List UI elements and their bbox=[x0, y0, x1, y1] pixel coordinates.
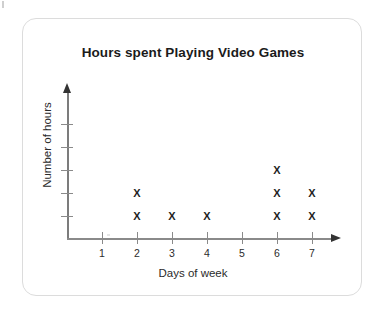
x-axis-tick-label: 6 bbox=[267, 247, 287, 259]
x-axis-tick bbox=[137, 232, 138, 244]
x-axis-tick-label: 7 bbox=[302, 247, 322, 259]
y-axis-tick bbox=[61, 216, 73, 217]
data-point-marker: X bbox=[165, 209, 179, 223]
data-point-marker: X bbox=[270, 209, 284, 223]
data-point-marker: X bbox=[130, 209, 144, 223]
x-axis-tick bbox=[312, 232, 313, 244]
y-axis-arrow-icon bbox=[63, 83, 71, 93]
y-axis-tick bbox=[61, 193, 73, 194]
x-axis-tick bbox=[207, 232, 208, 244]
data-point-marker: X bbox=[305, 209, 319, 223]
plot-area: Hours spent Playing Video Games Number o… bbox=[23, 19, 363, 297]
data-point-marker: X bbox=[200, 209, 214, 223]
data-point-marker: X bbox=[270, 163, 284, 177]
x-axis-line bbox=[67, 238, 333, 240]
y-axis-tick bbox=[61, 147, 73, 148]
data-point-marker: X bbox=[305, 186, 319, 200]
x-axis-label: Days of week bbox=[23, 267, 363, 279]
screenshot-canvas: Hours spent Playing Video Games Number o… bbox=[0, 0, 384, 312]
plot-speck bbox=[107, 234, 110, 236]
corner-artifact bbox=[2, 1, 4, 8]
x-axis-tick-label: 1 bbox=[92, 247, 112, 259]
y-axis-tick bbox=[61, 124, 73, 125]
x-axis-tick bbox=[172, 232, 173, 244]
x-axis-tick bbox=[102, 232, 103, 244]
data-point-marker: X bbox=[130, 186, 144, 200]
x-axis-tick bbox=[242, 232, 243, 244]
data-point-marker: X bbox=[270, 186, 284, 200]
x-axis-tick-label: 2 bbox=[127, 247, 147, 259]
x-axis-tick-label: 3 bbox=[162, 247, 182, 259]
x-axis-arrow-icon bbox=[331, 234, 341, 242]
chart-card: Hours spent Playing Video Games Number o… bbox=[22, 18, 362, 296]
y-axis-tick bbox=[61, 170, 73, 171]
x-axis-tick-label: 5 bbox=[232, 247, 252, 259]
chart-title: Hours spent Playing Video Games bbox=[23, 45, 363, 60]
x-axis-tick-label: 4 bbox=[197, 247, 217, 259]
x-axis-tick bbox=[277, 232, 278, 244]
y-axis-label: Number of hours bbox=[41, 75, 53, 215]
